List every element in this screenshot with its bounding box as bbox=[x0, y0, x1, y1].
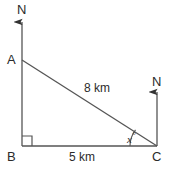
north-label-left: N bbox=[17, 3, 26, 16]
north-label-right: N bbox=[152, 75, 161, 88]
vertex-label-b: B bbox=[7, 150, 16, 163]
side-label-hypotenuse: 8 km bbox=[84, 82, 110, 94]
degree-symbol: ° bbox=[132, 130, 136, 140]
vertex-label-c: C bbox=[152, 150, 161, 163]
triangle-side-ac bbox=[22, 60, 157, 146]
right-angle-marker bbox=[22, 136, 32, 146]
angle-label-x: x° bbox=[127, 131, 136, 145]
vertex-label-a: A bbox=[7, 53, 16, 66]
geometry-figure: A B C N N 8 km 5 km x° bbox=[0, 0, 174, 172]
side-label-base: 5 km bbox=[69, 151, 95, 163]
